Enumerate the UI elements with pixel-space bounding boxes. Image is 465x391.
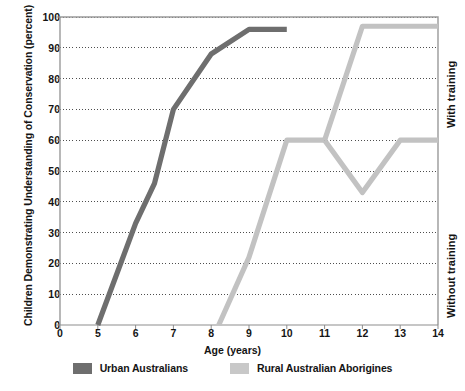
x-axis-tick-label: 6 xyxy=(133,327,139,339)
x-axis-title: Age (years) xyxy=(204,344,261,356)
annotation-without-training: Without training xyxy=(445,234,457,318)
x-axis-tick-label: 5 xyxy=(95,327,101,339)
x-axis-tick-label: 8 xyxy=(208,327,214,339)
x-axis-title-wrap: Age (years) xyxy=(0,344,465,356)
x-axis-tick-label: 0 xyxy=(57,327,63,339)
x-axis-tick-label: 13 xyxy=(394,327,406,339)
legend-label: Rural Australian Aborigines xyxy=(257,362,392,374)
x-axis-tick-labels: 0567891011121314 xyxy=(0,325,465,341)
legend-item-rural-australian-aborigines[interactable]: Rural Australian Aborigines xyxy=(230,362,392,374)
legend-swatch-icon xyxy=(230,363,249,374)
chart-legend: Urban AustraliansRural Australian Aborig… xyxy=(0,362,465,374)
legend-label: Urban Australians xyxy=(100,362,188,374)
x-axis-tick-label: 14 xyxy=(432,327,444,339)
legend-item-urban-australians[interactable]: Urban Australians xyxy=(73,362,188,374)
series-branch-without-training xyxy=(325,140,438,192)
x-axis-tick-label: 12 xyxy=(357,327,369,339)
chart-container: Children Demonstrating Understanding of … xyxy=(0,0,465,391)
series-branch-with-training xyxy=(325,26,438,140)
legend-swatch-icon xyxy=(73,363,92,374)
x-axis-tick-label: 9 xyxy=(246,327,252,339)
annotation-with-training: With training xyxy=(445,61,457,128)
x-axis-tick-label: 7 xyxy=(170,327,176,339)
x-axis-tick-label: 11 xyxy=(319,327,330,339)
x-axis-tick-label: 10 xyxy=(281,327,293,339)
series-line-urban-australians xyxy=(98,29,287,325)
